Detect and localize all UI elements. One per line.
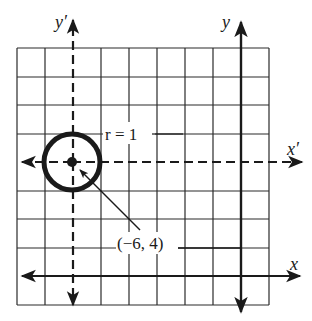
radius-label: r = 1 <box>105 125 137 144</box>
x-label: x <box>289 254 298 274</box>
grid <box>17 48 269 305</box>
center-leader-line <box>80 170 140 230</box>
y-label: y <box>220 12 230 32</box>
translated-axes-diagram: r = 1 (−6, 4) y′ y x′ x <box>0 0 312 321</box>
center-label: (−6, 4) <box>117 234 163 253</box>
y-prime-label: y′ <box>53 12 68 32</box>
x-prime-label: x′ <box>286 139 300 159</box>
center-point <box>67 157 77 167</box>
